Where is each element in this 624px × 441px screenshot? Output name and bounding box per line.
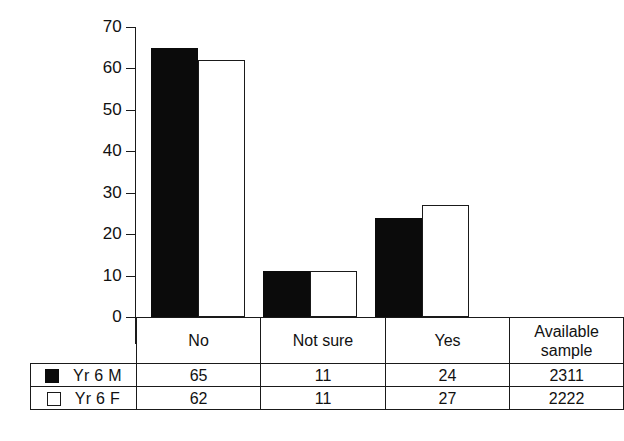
y-tick-mark-10 xyxy=(126,276,135,277)
column-header-available-sample: Available sample xyxy=(510,318,624,364)
y-tick-label-text-10: 10 xyxy=(82,267,122,284)
filled-square-icon xyxy=(45,369,59,383)
y-tick-label-40: 40 xyxy=(78,142,122,159)
y-tick-mark-70 xyxy=(126,27,135,28)
plot-area xyxy=(135,27,466,317)
cell-yr6m-sample: 2311 xyxy=(510,364,624,387)
table-header-row: No Not sure Yes Available sample xyxy=(31,318,624,364)
y-tick-label-text-50: 50 xyxy=(82,101,122,118)
table-row: Yr 6 M 65 11 24 2311 xyxy=(31,364,624,387)
bar-no-yr-6-m xyxy=(151,48,198,317)
y-tick-label-text-60: 60 xyxy=(82,59,122,76)
y-tick-label-text-70: 70 xyxy=(82,18,122,35)
y-tick-label-text-30: 30 xyxy=(82,184,122,201)
y-tick-label-text-20: 20 xyxy=(82,225,122,242)
available-sample-line1: Available xyxy=(510,322,623,341)
cell-yr6f-no: 62 xyxy=(136,387,260,410)
bar-not-sure-yr-6-m xyxy=(263,271,310,317)
bar-no-yr-6-f xyxy=(198,60,245,317)
cell-yr6m-yes: 24 xyxy=(385,364,509,387)
cell-yr6m-not-sure: 11 xyxy=(261,364,385,387)
y-tick-mark-40 xyxy=(126,151,135,152)
cell-yr6f-sample: 2222 xyxy=(510,387,624,410)
cell-yr6m-no: 65 xyxy=(136,364,260,387)
bar-chart-figure: 010203040506070 No Not sure Yes Availabl… xyxy=(0,0,624,441)
y-tick-mark-30 xyxy=(126,193,135,194)
column-header-yes: Yes xyxy=(385,318,509,364)
y-tick-mark-50 xyxy=(126,110,135,111)
y-tick-label-text-40: 40 xyxy=(82,142,122,159)
y-tick-label-20: 20 xyxy=(78,225,122,242)
table-corner-spacer xyxy=(31,318,137,364)
y-tick-label-30: 30 xyxy=(78,184,122,201)
legend-cell-yr6f: Yr 6 F xyxy=(31,387,137,410)
y-tick-label-70: 70 xyxy=(78,18,122,35)
y-tick-mark-20 xyxy=(126,234,135,235)
legend-cell-yr6m: Yr 6 M xyxy=(31,364,137,387)
column-header-no: No xyxy=(136,318,260,364)
table-row: Yr 6 F 62 11 27 2222 xyxy=(31,387,624,410)
y-tick-mark-60 xyxy=(126,68,135,69)
y-tick-label-50: 50 xyxy=(78,101,122,118)
column-header-not-sure: Not sure xyxy=(261,318,385,364)
bar-yes-yr-6-f xyxy=(422,205,469,317)
hollow-square-icon xyxy=(47,392,61,406)
legend-label-yr6m: Yr 6 M xyxy=(73,366,122,385)
bar-yes-yr-6-m xyxy=(375,218,422,317)
available-sample-line2: sample xyxy=(510,341,623,360)
data-table: No Not sure Yes Available sample Yr 6 M … xyxy=(30,317,624,410)
cell-yr6f-not-sure: 11 xyxy=(261,387,385,410)
y-tick-label-10: 10 xyxy=(78,267,122,284)
bar-not-sure-yr-6-f xyxy=(310,271,357,317)
cell-yr6f-yes: 27 xyxy=(385,387,509,410)
legend-label-yr6f: Yr 6 F xyxy=(75,389,120,408)
y-tick-label-60: 60 xyxy=(78,59,122,76)
